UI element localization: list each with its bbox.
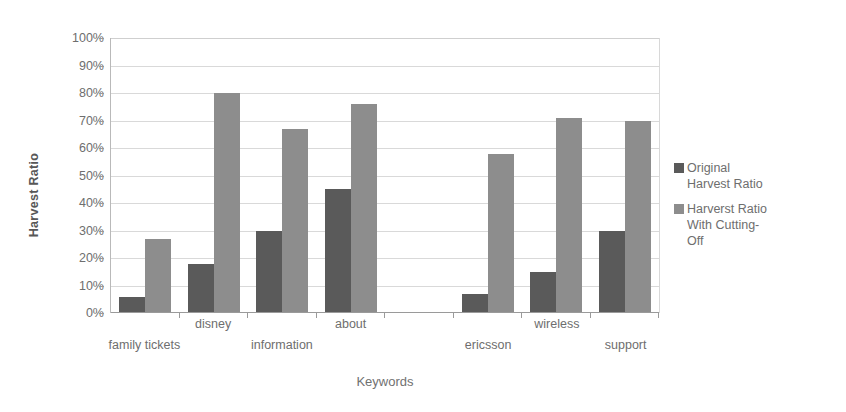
y-tick-label: 90%	[58, 59, 104, 73]
legend-label: Original Harvest Ratio	[687, 160, 763, 192]
y-tick-mark	[99, 258, 104, 259]
x-axis-title: Keywords	[110, 374, 660, 389]
y-tick-mark	[99, 148, 104, 149]
legend-swatch-icon	[674, 163, 684, 173]
bar-group	[385, 38, 454, 313]
y-tick-mark	[99, 313, 104, 314]
bar	[625, 121, 651, 314]
x-tick-label: family tickets	[109, 338, 181, 352]
y-tick-label: 30%	[58, 224, 104, 238]
y-tick-label: 60%	[58, 141, 104, 155]
bar	[256, 231, 282, 314]
legend-label: Harverst Ratio With Cutting- Off	[687, 201, 767, 249]
y-tick-mark	[99, 286, 104, 287]
bar-group	[111, 38, 180, 313]
y-tick-mark	[99, 93, 104, 94]
x-tick-label: information	[251, 338, 313, 352]
y-tick-label: 50%	[58, 169, 104, 183]
bar	[599, 231, 625, 314]
bar-chart: Harvest Ratio 0%10%20%30%40%50%60%70%80%…	[0, 0, 846, 412]
chart-legend: Original Harvest RatioHarverst Ratio Wit…	[674, 160, 842, 258]
x-tick-label: about	[335, 317, 366, 331]
x-tick-label: disney	[195, 317, 231, 331]
y-axis-title-text: Harvest Ratio	[27, 153, 41, 238]
bar-group	[317, 38, 386, 313]
x-axis-labels: family ticketsdisneyinformationabouteric…	[110, 316, 660, 368]
y-tick-label: 100%	[58, 31, 104, 45]
bar	[462, 294, 488, 313]
bar	[282, 129, 308, 313]
y-tick-label: 40%	[58, 196, 104, 210]
bar-group	[522, 38, 591, 313]
plot-area	[110, 38, 660, 313]
x-tick-label: ericsson	[465, 338, 512, 352]
y-tick-label: 80%	[58, 86, 104, 100]
y-tick-label: 10%	[58, 279, 104, 293]
x-tick-label: support	[605, 338, 647, 352]
y-tick-label: 20%	[58, 251, 104, 265]
y-tick-label: 0%	[58, 306, 104, 320]
bar	[351, 104, 377, 313]
bar-group	[180, 38, 249, 313]
y-tick-mark	[99, 176, 104, 177]
y-axis-ticks: 0%10%20%30%40%50%60%70%80%90%100%	[52, 38, 104, 313]
legend-item: Original Harvest Ratio	[674, 160, 842, 192]
bar	[119, 297, 145, 314]
bar	[188, 264, 214, 314]
y-tick-mark	[99, 121, 104, 122]
bar	[556, 118, 582, 313]
bar-groups	[111, 38, 659, 313]
bar	[145, 239, 171, 313]
bar-group	[248, 38, 317, 313]
y-tick-mark	[99, 38, 104, 39]
bar-group	[591, 38, 660, 313]
bar	[488, 154, 514, 314]
y-tick-mark	[99, 66, 104, 67]
y-tick-mark	[99, 203, 104, 204]
y-axis-title: Harvest Ratio	[22, 120, 46, 270]
y-tick-label: 70%	[58, 114, 104, 128]
y-tick-mark	[99, 231, 104, 232]
legend-item: Harverst Ratio With Cutting- Off	[674, 201, 842, 249]
x-tick-label: wireless	[534, 317, 579, 331]
bar	[214, 93, 240, 313]
bar-group	[454, 38, 523, 313]
bar	[530, 272, 556, 313]
legend-swatch-icon	[674, 204, 684, 214]
x-axis-line	[111, 312, 659, 313]
bar	[325, 189, 351, 313]
